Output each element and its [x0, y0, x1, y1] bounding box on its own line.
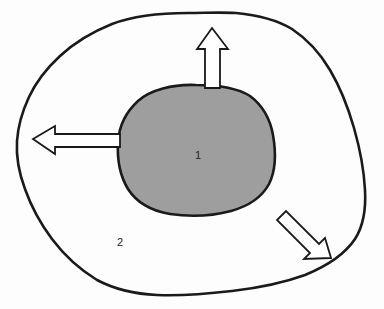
- diagram-canvas: 1 2: [0, 0, 384, 309]
- outer-region-label: 2: [117, 236, 123, 248]
- diagram-illustration: 1 2: [0, 0, 384, 309]
- inner-region-label: 1: [195, 149, 201, 161]
